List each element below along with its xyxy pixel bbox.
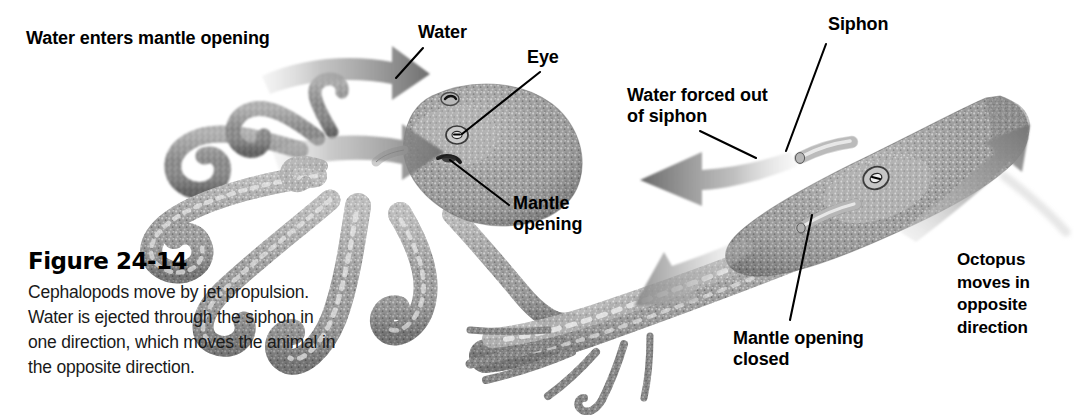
left-octopus-eye — [446, 126, 468, 144]
figure-24-14: Water enters mantle opening Water Eye Ma… — [0, 0, 1074, 415]
label-eye: Eye — [527, 47, 559, 68]
label-water: Water — [418, 22, 467, 43]
label-octopus-moves-in-opposite-direction: Octopus moves in opposite direction — [957, 249, 1030, 339]
label-mantle-opening-closed: Mantle opening closed — [733, 328, 864, 370]
label-water-enters-mantle-opening: Water enters mantle opening — [26, 28, 270, 49]
label-water-forced-out-of-siphon: Water forced out of siphon — [627, 85, 768, 127]
label-mantle-opening: Mantle opening — [513, 193, 582, 235]
label-siphon: Siphon — [828, 14, 888, 35]
left-octopus-eye-far — [441, 93, 459, 106]
figure-caption-text: Cephalopods move by jet propulsion. Wate… — [28, 280, 378, 380]
figure-number-title: Figure 24-14 — [28, 248, 187, 274]
